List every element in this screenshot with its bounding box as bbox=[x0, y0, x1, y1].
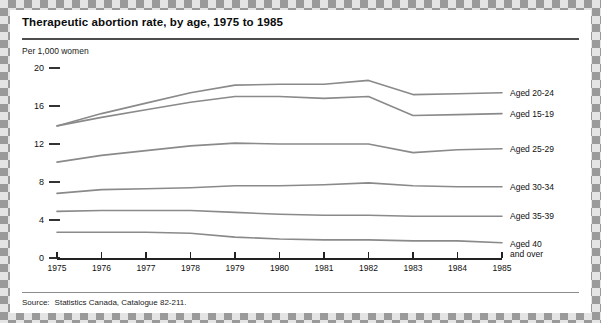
x-tick-label: 1976 bbox=[92, 263, 111, 273]
y-tick-dash bbox=[49, 181, 60, 183]
legend-item-label: Aged 35-39 bbox=[510, 211, 554, 221]
y-tick-label: 8 bbox=[18, 177, 44, 187]
legend-item: Aged 30-34 bbox=[510, 182, 554, 192]
series-paths-group bbox=[57, 80, 502, 242]
legend-item: Aged 15-19 bbox=[510, 109, 554, 119]
x-tick-label: 1983 bbox=[404, 263, 423, 273]
x-tick-label: 1984 bbox=[448, 263, 467, 273]
x-tick-label: 1980 bbox=[270, 263, 289, 273]
y-tick-label: 20 bbox=[18, 63, 44, 73]
figure-inner-panel: Therapeutic abortion rate, by age, 1975 … bbox=[10, 10, 591, 313]
y-tick-dash bbox=[49, 143, 60, 145]
x-tick-label: 1977 bbox=[137, 263, 156, 273]
x-tick-label: 1975 bbox=[48, 263, 67, 273]
x-tick-label: 1978 bbox=[181, 263, 200, 273]
legend-item-label: Aged 30-34 bbox=[510, 182, 554, 192]
y-tick-dash bbox=[49, 105, 60, 107]
y-tick-label: 0 bbox=[18, 253, 44, 263]
plot-area: 048121620 197519761977197819791980198119… bbox=[10, 10, 591, 313]
y-tick-label: 12 bbox=[18, 139, 44, 149]
series-line bbox=[57, 183, 502, 194]
legend-item: Aged 25-29 bbox=[510, 144, 554, 154]
legend-item-label: Aged 40 bbox=[510, 239, 543, 249]
y-tick-dash bbox=[49, 219, 60, 221]
legend-item: Aged 20-24 bbox=[510, 88, 554, 98]
series-line bbox=[57, 232, 502, 243]
legend-item-label-cont: and over bbox=[510, 249, 543, 259]
x-tick-label: 1982 bbox=[359, 263, 378, 273]
series-line bbox=[57, 97, 502, 126]
series-line bbox=[57, 211, 502, 217]
series-line bbox=[57, 80, 502, 126]
legend-item: Aged 40and over bbox=[510, 239, 543, 259]
series-line bbox=[57, 143, 502, 162]
x-tick-label: 1985 bbox=[493, 263, 512, 273]
figure-frame: Therapeutic abortion rate, by age, 1975 … bbox=[0, 0, 601, 323]
x-axis-line bbox=[57, 258, 502, 260]
legend-item-label: Aged 25-29 bbox=[510, 144, 554, 154]
y-tick-label: 16 bbox=[18, 101, 44, 111]
x-tick-label: 1981 bbox=[315, 263, 334, 273]
legend-item: Aged 35-39 bbox=[510, 211, 554, 221]
x-tick-label: 1979 bbox=[226, 263, 245, 273]
y-tick-label: 4 bbox=[18, 215, 44, 225]
legend-item-label: Aged 20-24 bbox=[510, 88, 554, 98]
source-label: Source: bbox=[22, 298, 50, 307]
source-text: Statistics Canada, Catalogue 82-211. bbox=[55, 298, 187, 307]
y-tick-dash bbox=[49, 67, 60, 69]
source-divider bbox=[22, 292, 579, 293]
source-note: Source:Statistics Canada, Catalogue 82-2… bbox=[22, 298, 187, 307]
legend-item-label: Aged 15-19 bbox=[510, 109, 554, 119]
